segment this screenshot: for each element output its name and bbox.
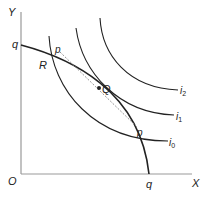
trade-equilibrium-diagram: Y X O q q p p R Q i0 i1 i2: [0, 0, 208, 198]
price-line-label-lower: p: [136, 127, 143, 138]
price-line-label-upper: p: [54, 44, 61, 55]
y-axis-label: Y: [8, 6, 16, 18]
indifference-curve-i2: [100, 18, 178, 90]
ppf-label-bottom: q: [146, 178, 153, 190]
point-r-label: R: [39, 59, 47, 71]
i0-label: i0: [169, 137, 175, 149]
ppf-label-top: q: [12, 38, 19, 50]
point-q-label: Q: [102, 83, 111, 95]
i2-label: i2: [180, 85, 186, 97]
point-q-marker: [97, 86, 101, 90]
origin-label: O: [8, 175, 17, 187]
i1-label: i1: [176, 111, 182, 123]
x-axis-label: X: [191, 177, 200, 189]
